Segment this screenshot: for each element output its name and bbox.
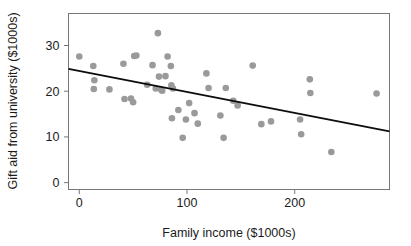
data-point <box>179 135 186 142</box>
data-point <box>298 131 305 138</box>
scatter-plot-figure: 0102030 0100200 Family income ($1000s) G… <box>0 0 411 246</box>
data-point <box>106 86 113 93</box>
data-point <box>175 107 182 114</box>
data-point <box>120 60 127 67</box>
data-point <box>186 100 193 107</box>
data-point <box>155 30 162 37</box>
chart-canvas: 0102030 0100200 Family income ($1000s) G… <box>0 0 411 246</box>
x-tick-label: 100 <box>177 196 198 210</box>
data-point <box>183 116 190 123</box>
data-point <box>91 77 98 84</box>
data-point <box>156 73 163 80</box>
x-axis-title: Family income ($1000s) <box>162 226 295 240</box>
x-tick-label: 200 <box>284 196 305 210</box>
data-point <box>191 110 198 117</box>
data-point <box>194 120 201 127</box>
data-point <box>164 53 171 60</box>
y-axis-title: Gift aid from university ($1000s) <box>6 12 20 189</box>
data-point <box>91 86 98 93</box>
data-point <box>121 96 128 103</box>
data-point <box>76 53 83 60</box>
data-point <box>307 90 314 97</box>
data-point <box>222 85 229 92</box>
data-point <box>130 99 137 106</box>
data-point <box>220 135 227 142</box>
y-tick-label: 0 <box>53 176 60 190</box>
data-point <box>328 149 335 156</box>
data-point <box>306 76 313 83</box>
data-point <box>205 85 212 92</box>
y-tick-label: 10 <box>46 130 60 144</box>
data-point <box>149 62 156 69</box>
x-tick-label: 0 <box>76 196 83 210</box>
data-point <box>249 62 256 69</box>
data-point <box>297 116 304 123</box>
data-point <box>133 52 140 59</box>
data-point <box>268 118 275 125</box>
data-point <box>203 70 210 77</box>
data-point <box>90 63 97 70</box>
y-tick-label: 30 <box>46 39 60 53</box>
y-tick-label: 20 <box>46 85 60 99</box>
data-point <box>258 121 265 128</box>
data-point <box>169 115 176 122</box>
data-point <box>217 112 224 119</box>
data-point <box>168 63 175 70</box>
data-point <box>162 73 169 80</box>
data-point <box>373 90 380 97</box>
